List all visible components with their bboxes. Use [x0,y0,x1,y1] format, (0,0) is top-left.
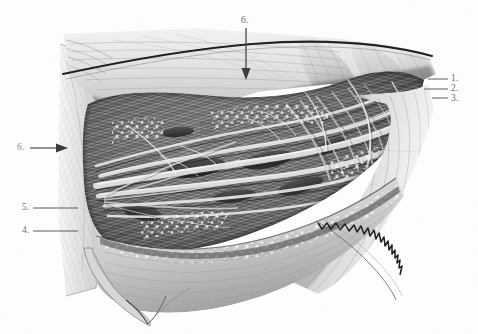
label-3-right: 3. [451,94,459,104]
arrow-6-left [30,144,68,153]
label-5-left: 5. [22,203,30,213]
illustration-plate: 6. 6. 5. 4. 1. 2. 3. [0,0,478,334]
label-6-top: 6. [241,16,249,26]
label-6-left: 6. [17,143,25,153]
annotation-leaders [0,0,478,334]
arrow-6-top [242,28,251,80]
label-4-left: 4. [22,226,30,236]
